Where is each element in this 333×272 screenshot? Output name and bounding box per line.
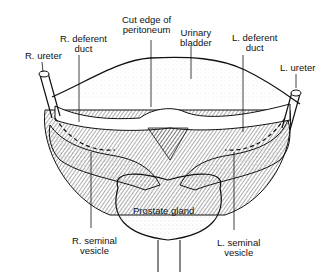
label-l-deferent-duct: L. deferent duct (232, 33, 277, 53)
bladder-outline (52, 57, 300, 104)
label-l-ureter: L. ureter (280, 63, 315, 73)
label-r-ureter: R. ureter (25, 51, 62, 61)
label-l-seminal-vesicle: L. seminal vesicle (217, 238, 260, 258)
label-r-seminal-vesicle: R. seminal vesicle (72, 236, 117, 256)
label-r-deferent-duct: R. deferent duct (60, 34, 107, 54)
peritoneum-edge (55, 104, 290, 130)
label-urinary-bladder: Urinary bladder (180, 28, 212, 48)
label-prostate-gland: Prostate gland (133, 206, 194, 216)
label-cut-edge-peritoneum: Cut edge of peritoneum (122, 15, 171, 35)
anatomy-illustration (0, 0, 333, 272)
